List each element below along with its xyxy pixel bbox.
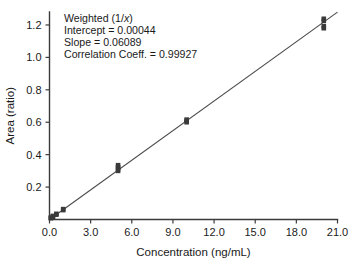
annotation-slope: Slope = 0.06089: [64, 36, 142, 48]
x-tick-label: 3.0: [83, 226, 98, 238]
data-point: [116, 163, 121, 168]
y-tick-label: 0.6: [26, 116, 41, 128]
data-point: [184, 117, 189, 122]
x-axis-title: Concentration (ng/mL): [136, 246, 251, 258]
data-point: [54, 212, 59, 217]
y-tick-label: 1.0: [26, 51, 41, 63]
x-tick-label: 18.0: [286, 226, 307, 238]
statistics-annotation: Weighted (1/x) Intercept = 0.00044 Slope…: [64, 12, 197, 60]
y-tick-label: 0.4: [26, 149, 41, 161]
x-tick-label: 15.0: [245, 226, 266, 238]
annotation-weighting: Weighted (1/x): [64, 12, 133, 24]
x-tick-label: 12.0: [203, 226, 224, 238]
y-tick-label: 0.8: [26, 84, 41, 96]
x-tick-label: 6.0: [124, 226, 139, 238]
x-tick-label: 21.0: [327, 226, 348, 238]
x-axis-tick-labels: 0.03.06.09.012.015.018.021.0: [42, 226, 348, 238]
annotation-intercept: Intercept = 0.00044: [64, 24, 156, 36]
calibration-curve-chart: 0.20.40.60.81.01.2 0.03.06.09.012.015.01…: [0, 0, 354, 270]
y-tick-label: 1.2: [26, 19, 41, 31]
data-point: [61, 207, 66, 212]
x-tick-label: 9.0: [165, 226, 180, 238]
annotation-correlation: Correlation Coeff. = 0.99927: [64, 48, 197, 60]
chart-canvas: 0.20.40.60.81.01.2 0.03.06.09.012.015.01…: [0, 0, 354, 270]
y-axis-tick-labels: 0.20.40.60.81.01.2: [26, 19, 41, 193]
data-point: [321, 24, 326, 29]
y-tick-label: 0.2: [26, 181, 41, 193]
y-axis-title: Area (ratio): [4, 87, 16, 145]
x-tick-label: 0.0: [42, 226, 57, 238]
data-point: [321, 17, 326, 22]
